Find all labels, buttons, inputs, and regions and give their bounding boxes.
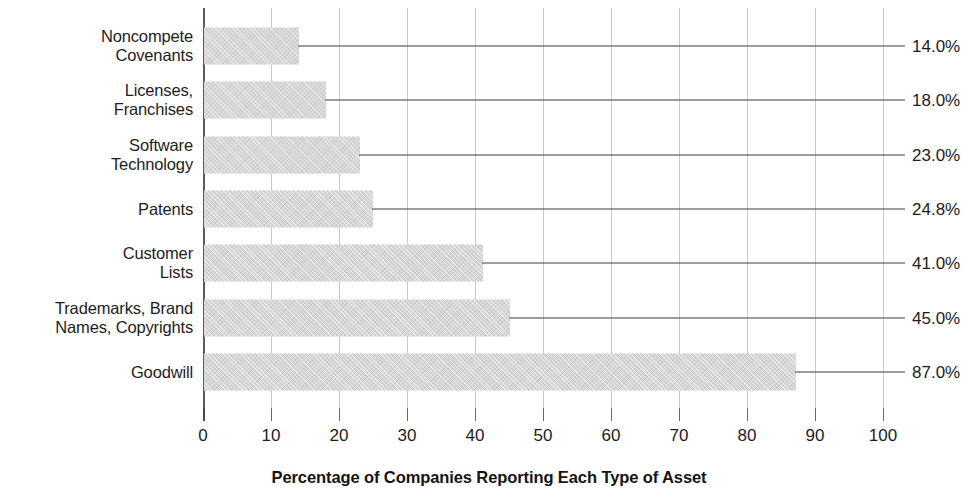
bar [204, 353, 796, 390]
value-label: 41.0% [912, 255, 960, 272]
leader-line [325, 100, 905, 101]
x-tick-10 [271, 408, 272, 421]
value-label: 24.8% [912, 200, 960, 217]
x-tick-label-100: 100 [869, 426, 897, 446]
category-label: Noncompete Covenants [101, 27, 193, 65]
bar [204, 299, 510, 336]
value-label: 87.0% [912, 363, 960, 380]
bar [204, 190, 373, 227]
x-tick-label-10: 10 [262, 426, 281, 446]
value-label: 18.0% [912, 92, 960, 109]
leader-line [482, 263, 905, 264]
category-label: Trademarks, Brand Names, Copyrights [55, 299, 193, 337]
category-label: Patents [138, 199, 193, 218]
bar [204, 28, 299, 65]
x-tick-label-50: 50 [534, 426, 553, 446]
x-tick-label-40: 40 [466, 426, 485, 446]
bar-chart: Noncompete CovenantsLicenses, Franchises… [0, 0, 978, 501]
x-tick-label-80: 80 [738, 426, 757, 446]
value-label: 23.0% [912, 146, 960, 163]
value-label: 14.0% [912, 38, 960, 55]
bar [204, 245, 483, 282]
bar [204, 136, 360, 173]
x-tick-40 [475, 408, 476, 421]
leader-line [509, 317, 905, 318]
x-tick-50 [543, 408, 544, 421]
x-tick-label-0: 0 [198, 426, 207, 446]
leader-line [298, 46, 905, 47]
leader-line [372, 208, 905, 209]
x-tick-label-30: 30 [398, 426, 417, 446]
x-tick-100 [883, 408, 884, 421]
x-tick-label-90: 90 [806, 426, 825, 446]
category-label: Licenses, Franchises [114, 81, 193, 119]
x-tick-80 [747, 408, 748, 421]
leader-line [359, 154, 905, 155]
x-tick-30 [407, 408, 408, 421]
x-tick-20 [339, 408, 340, 421]
x-tick-90 [815, 408, 816, 421]
value-label: 45.0% [912, 309, 960, 326]
bar [204, 82, 326, 119]
x-tick-60 [611, 408, 612, 421]
category-label: Customer Lists [123, 244, 193, 282]
x-tick-label-70: 70 [670, 426, 689, 446]
category-label: Software Technology [111, 136, 193, 174]
x-tick-label-20: 20 [330, 426, 349, 446]
category-label: Goodwill [131, 362, 193, 381]
x-tick-70 [679, 408, 680, 421]
x-tick-label-60: 60 [602, 426, 621, 446]
x-tick-0 [203, 408, 205, 421]
x-axis-title: Percentage of Companies Reporting Each T… [0, 468, 978, 487]
leader-line [795, 371, 905, 372]
